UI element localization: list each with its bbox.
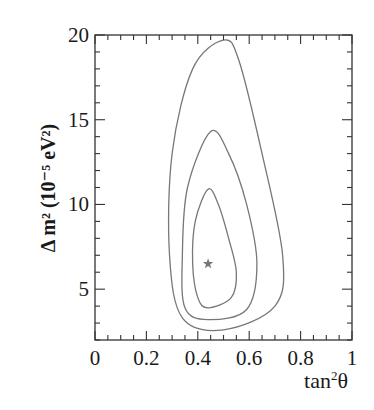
y-tick-label: 5: [79, 277, 90, 301]
y-tick-label: 20: [68, 23, 89, 47]
y-axis-label: Δ m² (10⁻⁵ eV²): [37, 124, 60, 252]
x-tick-label: 0.2: [133, 346, 159, 370]
contour-chart: 00.20.40.60.815101520 tan2θ Δ m² (10⁻⁵ e…: [0, 0, 374, 410]
axis-ticks: [95, 35, 352, 340]
x-tick-label: 0.4: [185, 346, 212, 370]
x-tick-label: 0.6: [236, 346, 262, 370]
tick-labels: 00.20.40.60.815101520: [68, 23, 357, 370]
contour-inner: [193, 189, 237, 308]
contour-middle: [182, 130, 257, 319]
x-tick-label: 0: [90, 346, 101, 370]
x-axis-label: tan2θ: [304, 368, 348, 393]
x-tick-label: 0.8: [287, 346, 313, 370]
y-tick-label: 15: [68, 108, 89, 132]
x-tick-label: 1: [347, 346, 358, 370]
plot-frame: [95, 35, 352, 340]
plot-area: [95, 35, 352, 340]
y-tick-label: 10: [68, 192, 89, 216]
contour-outer: [169, 40, 284, 331]
best-fit-star-icon: [203, 258, 213, 268]
